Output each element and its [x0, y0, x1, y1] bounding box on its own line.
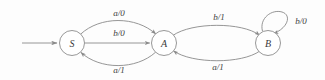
transition-a-to-b-b1-path	[173, 25, 260, 35]
transition-a-to-b-b1[interactable]: b/1	[173, 12, 260, 36]
transition-a-to-s-a1-path	[81, 52, 156, 65]
state-node-s[interactable]: S	[60, 31, 85, 56]
transition-b-to-a-a1[interactable]: a/1	[173, 51, 259, 72]
state-node-a[interactable]: A	[152, 31, 177, 56]
state-node-b[interactable]: B	[256, 31, 281, 56]
state-label-a: A	[160, 38, 168, 49]
transition-label-a0-top: a/0	[113, 8, 125, 18]
state-label-b: B	[265, 38, 271, 49]
transition-label-b1-top: b/1	[213, 12, 225, 22]
transition-b-to-a-a1-path	[173, 51, 259, 61]
transition-label-b0-self: b/0	[295, 16, 307, 26]
transition-label-b0-mid: b/0	[113, 28, 125, 38]
transition-s-to-a-b0[interactable]: b/0	[85, 28, 150, 43]
transition-label-a1-bottom: a/1	[113, 65, 125, 75]
state-diagram-canvas: a/0 b/0 a/1 b/1 a/1 b/0 S	[0, 0, 325, 80]
transition-label-a1-lower: a/1	[212, 62, 224, 72]
state-machine-diagram: a/0 b/0 a/1 b/1 a/1 b/0 S	[0, 0, 325, 80]
state-label-s: S	[70, 38, 75, 49]
transition-a-to-s-a1[interactable]: a/1	[81, 52, 156, 75]
